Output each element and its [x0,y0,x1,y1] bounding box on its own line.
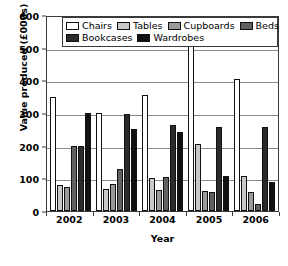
bar-beds-2002 [71,146,77,211]
legend-swatch-chairs-icon [66,22,79,30]
legend-item-beds[interactable]: Beds [240,21,279,31]
legend-swatch-bookcases-icon [66,34,79,42]
bar-tables-2005 [195,144,201,211]
x-axis-tick-mark [279,212,280,216]
bar-beds-2003 [117,169,123,211]
x-axis-title: Year [46,233,279,244]
bar-wardrobes-2005 [223,176,229,211]
bar-wardrobes-2002 [85,113,91,211]
legend-item-wardrobes[interactable]: Wardrobes [137,33,204,43]
bar-bookcases-2005 [216,127,222,211]
bar-chart: Value produced (£000s) 01002003004005006… [0,0,288,266]
bar-chairs-2006 [234,79,240,211]
legend-label: Beds [256,21,279,31]
legend-label: Tables [133,21,163,31]
bar-bookcases-2006 [262,127,268,211]
legend-swatch-wardrobes-icon [137,34,150,42]
legend-item-bookcases[interactable]: Bookcases [66,33,132,43]
y-axis-tick-label: 0 [32,207,39,218]
bar-tables-2003 [103,189,109,211]
x-axis-tick-label: 2005 [186,214,233,225]
legend-swatch-tables-icon [117,22,130,30]
bar-chairs-2002 [50,97,56,211]
bar-cupboards-2004 [156,190,162,211]
bar-cupboards-2006 [248,192,254,211]
bar-chairs-2004 [142,95,148,211]
legend-label: Wardrobes [153,33,204,43]
legend-item-chairs[interactable]: Chairs [66,21,112,31]
bar-beds-2006 [255,204,261,211]
y-axis-tick-label: 500 [19,43,39,54]
legend-row: ChairsTablesCupboardsBeds [66,20,275,32]
bar-bookcases-2004 [170,125,176,211]
legend-item-cupboards[interactable]: Cupboards [168,21,235,31]
bar-wardrobes-2003 [131,129,137,211]
legend-item-tables[interactable]: Tables [117,21,163,31]
bar-tables-2004 [149,178,155,211]
x-axis-tick-label: 2002 [46,214,93,225]
x-axis-tick-label: 2006 [232,214,279,225]
legend-label: Cupboards [184,21,235,31]
bar-tables-2002 [57,185,63,211]
bar-cupboards-2003 [110,184,116,211]
bar-bookcases-2002 [78,146,84,211]
bar-bookcases-2003 [124,114,130,211]
y-axis-tick-label: 300 [19,109,39,120]
y-axis-tick-label: 400 [19,76,39,87]
y-axis-ticks: 0100200300400500600 [0,0,44,230]
legend-row: BookcasesWardrobes [66,32,275,44]
bar-cupboards-2002 [64,187,70,212]
x-axis-ticks: 20022003200420052006 [46,214,279,225]
legend-swatch-beds-icon [240,22,253,30]
bar-beds-2004 [163,177,169,211]
legend-swatch-cupboards-icon [168,22,181,30]
bar-chairs-2005 [188,44,194,211]
bar-chairs-2003 [96,113,102,211]
bar-cupboards-2005 [202,191,208,211]
legend-label: Chairs [82,21,112,31]
legend-label: Bookcases [82,33,132,43]
x-axis-tick-label: 2004 [139,214,186,225]
bar-tables-2006 [241,176,247,211]
chart-legend: ChairsTablesCupboardsBeds BookcasesWardr… [62,17,278,47]
y-axis-tick-label: 100 [19,174,39,185]
bar-beds-2005 [209,192,215,211]
bar-wardrobes-2004 [177,132,183,211]
bar-wardrobes-2006 [269,182,275,211]
y-axis-tick-label: 600 [19,11,39,22]
x-axis-tick-label: 2003 [93,214,140,225]
y-axis-tick-label: 200 [19,141,39,152]
